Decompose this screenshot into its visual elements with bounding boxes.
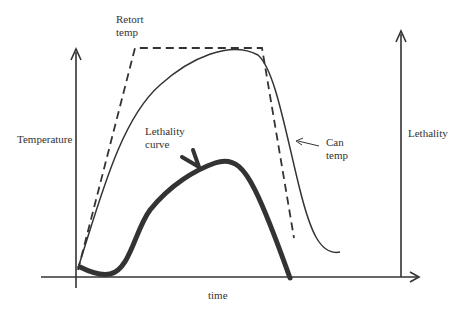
can-temp-curve [78, 50, 340, 268]
temperature-label: Temperature [17, 133, 72, 146]
lethality-curve-label-line2: curve [145, 138, 185, 151]
time-label: time [208, 289, 228, 302]
lethality-pointer-arrow-icon [182, 150, 199, 167]
can-label-line2: temp [326, 149, 348, 162]
can-temp-pointer [298, 141, 319, 146]
can-temp-label: Can temp [326, 136, 348, 162]
lethality-axis-label: Lethality [408, 127, 448, 140]
retort-temp-label: Retort temp [116, 13, 144, 39]
lethality-curve-label: Lethality curve [145, 125, 185, 151]
retort-label-line1: Retort [116, 13, 144, 26]
retort-label-line2: temp [116, 26, 144, 39]
lethality-curve-label-line1: Lethality [145, 125, 185, 138]
diagram-canvas [0, 0, 463, 315]
can-label-line1: Can [326, 136, 348, 149]
lethality-curve [80, 161, 290, 278]
